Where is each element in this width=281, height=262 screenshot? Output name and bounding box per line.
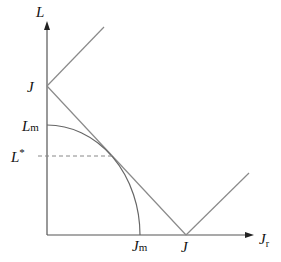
y-intercept-label: J [27,79,35,95]
l-star-label: L* [10,146,25,165]
budget-line [47,86,186,235]
x-intercept-label: J [181,239,189,255]
x-axis-label: Jr [259,231,270,249]
x-axis-arrow-icon [245,232,254,238]
frontier-curve [47,125,140,235]
diagram-canvas: L Jr J Lm L* Jm J [0,0,281,262]
j-m-label: Jm [132,238,148,254]
right-branch-line [186,173,249,235]
y-axis-arrow-icon [44,21,50,30]
upper-branch-line [47,27,104,86]
y-axis-label: L [35,4,44,20]
l-m-label: Lm [21,118,39,134]
